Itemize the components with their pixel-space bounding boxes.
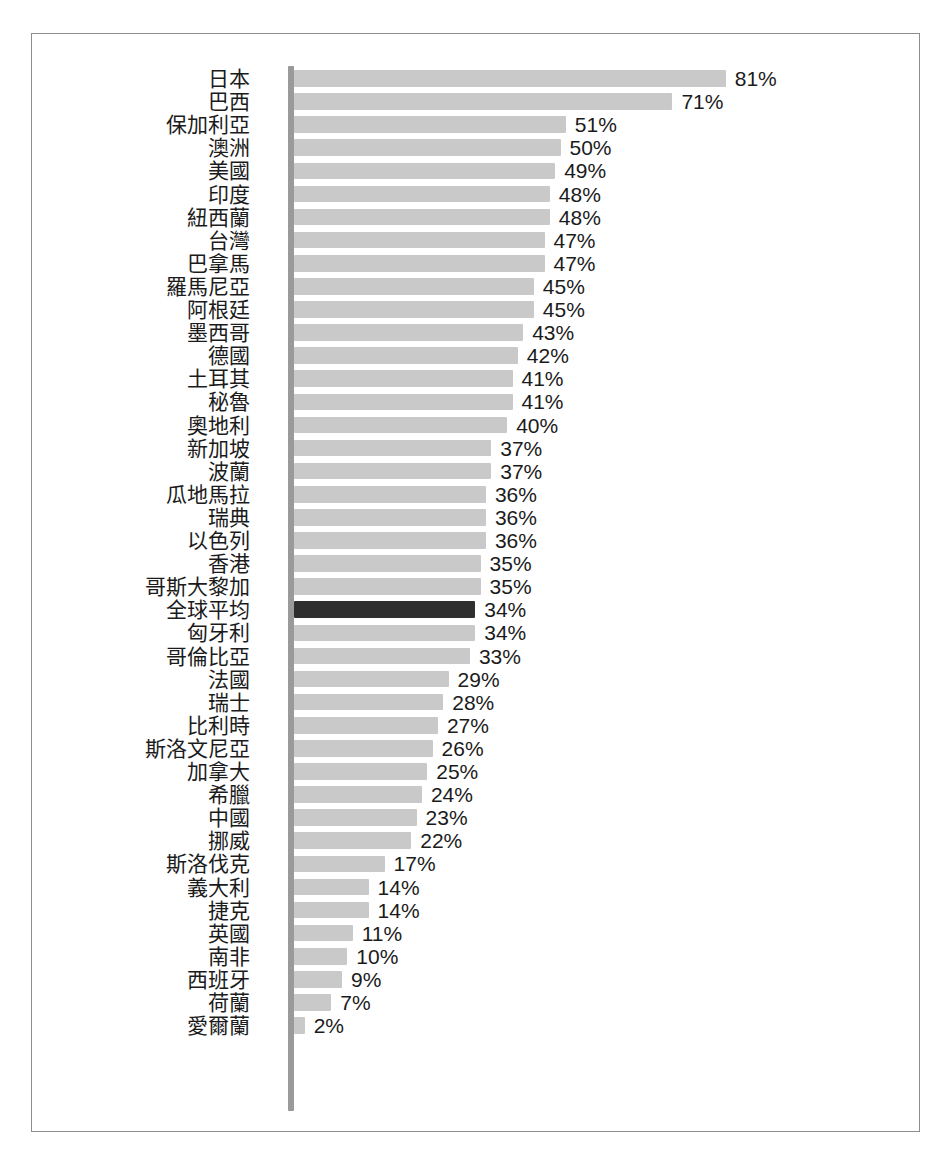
bar[interactable] bbox=[294, 278, 534, 295]
bar[interactable] bbox=[294, 93, 672, 110]
bar[interactable] bbox=[294, 509, 486, 526]
bar-row: 巴拿馬47% bbox=[32, 252, 919, 275]
bar-row: 羅馬尼亞45% bbox=[32, 275, 919, 298]
bar-track bbox=[294, 163, 555, 180]
bar[interactable] bbox=[294, 763, 427, 780]
bar[interactable] bbox=[294, 740, 433, 757]
bar-track bbox=[294, 786, 422, 803]
bar[interactable] bbox=[294, 1017, 305, 1034]
bar-row: 澳洲50% bbox=[32, 136, 919, 159]
bar-category-label: 台灣 bbox=[208, 229, 250, 252]
bar-highlighted[interactable] bbox=[294, 601, 475, 618]
bar-category-label: 哥斯大黎加 bbox=[145, 575, 250, 598]
bar[interactable] bbox=[294, 394, 513, 411]
bar[interactable] bbox=[294, 856, 385, 873]
bar-row: 墨西哥43% bbox=[32, 321, 919, 344]
bar[interactable] bbox=[294, 532, 486, 549]
bar-row: 印度48% bbox=[32, 183, 919, 206]
bar-category-label: 斯洛文尼亞 bbox=[145, 737, 250, 760]
bar-category-label: 巴拿馬 bbox=[187, 252, 250, 275]
bar[interactable] bbox=[294, 417, 507, 434]
bar-value-label: 27% bbox=[438, 714, 489, 737]
bar-track bbox=[294, 925, 353, 942]
bar-track bbox=[294, 394, 513, 411]
bar[interactable] bbox=[294, 925, 353, 942]
bar-row: 法國29% bbox=[32, 668, 919, 691]
bar-category-label: 羅馬尼亞 bbox=[166, 275, 250, 298]
bar[interactable] bbox=[294, 902, 369, 919]
bar[interactable] bbox=[294, 671, 449, 688]
bar-track bbox=[294, 601, 475, 618]
bar-value-label: 9% bbox=[342, 968, 381, 991]
bar[interactable] bbox=[294, 116, 566, 133]
bar[interactable] bbox=[294, 809, 417, 826]
bar[interactable] bbox=[294, 324, 523, 341]
bar-value-label: 45% bbox=[534, 298, 585, 321]
bar[interactable] bbox=[294, 879, 369, 896]
bar-track bbox=[294, 809, 417, 826]
bar-track bbox=[294, 209, 550, 226]
bar-track bbox=[294, 578, 481, 595]
bar-track bbox=[294, 994, 331, 1011]
bar[interactable] bbox=[294, 186, 550, 203]
plot-area: 日本81%巴西71%保加利亞51%澳洲50%美國49%印度48%紐西蘭48%台灣… bbox=[32, 34, 919, 1131]
bar[interactable] bbox=[294, 578, 481, 595]
bar-category-label: 波蘭 bbox=[208, 460, 250, 483]
bar[interactable] bbox=[294, 832, 411, 849]
bar[interactable] bbox=[294, 786, 422, 803]
bar[interactable] bbox=[294, 347, 518, 364]
bar-row: 波蘭37% bbox=[32, 460, 919, 483]
bar-category-label: 挪威 bbox=[208, 829, 250, 852]
bar-category-label: 紐西蘭 bbox=[187, 206, 250, 229]
bar[interactable] bbox=[294, 370, 513, 387]
bar-value-label: 48% bbox=[550, 206, 601, 229]
bar-category-label: 土耳其 bbox=[187, 367, 250, 390]
bar-track bbox=[294, 740, 433, 757]
bar[interactable] bbox=[294, 994, 331, 1011]
bar-value-label: 10% bbox=[347, 945, 398, 968]
bar[interactable] bbox=[294, 163, 555, 180]
bar-category-label: 荷蘭 bbox=[208, 991, 250, 1014]
bar-track bbox=[294, 694, 443, 711]
bar-category-label: 日本 bbox=[208, 67, 250, 90]
bar-value-label: 36% bbox=[486, 529, 537, 552]
bar-value-label: 34% bbox=[475, 621, 526, 644]
bar-value-label: 2% bbox=[305, 1014, 344, 1037]
bar-row: 日本81% bbox=[32, 67, 919, 90]
bar-track bbox=[294, 509, 486, 526]
bar[interactable] bbox=[294, 232, 545, 249]
bar-category-label: 秘魯 bbox=[208, 390, 250, 413]
bar[interactable] bbox=[294, 255, 545, 272]
bar-track bbox=[294, 902, 369, 919]
bar[interactable] bbox=[294, 948, 347, 965]
bar[interactable] bbox=[294, 625, 475, 642]
bar[interactable] bbox=[294, 440, 491, 457]
bar[interactable] bbox=[294, 717, 438, 734]
bar[interactable] bbox=[294, 694, 443, 711]
bar-value-label: 49% bbox=[555, 159, 606, 182]
bar-value-label: 36% bbox=[486, 483, 537, 506]
bar-value-label: 37% bbox=[491, 460, 542, 483]
bar-row: 新加坡37% bbox=[32, 437, 919, 460]
bar-row: 愛爾蘭2% bbox=[32, 1014, 919, 1037]
bar[interactable] bbox=[294, 139, 561, 156]
bar[interactable] bbox=[294, 463, 491, 480]
bar-category-label: 美國 bbox=[208, 159, 250, 182]
bar-track bbox=[294, 648, 470, 665]
bar-track bbox=[294, 717, 438, 734]
bar-track bbox=[294, 116, 566, 133]
bar[interactable] bbox=[294, 301, 534, 318]
bar[interactable] bbox=[294, 648, 470, 665]
bar-row: 以色列36% bbox=[32, 529, 919, 552]
bar[interactable] bbox=[294, 971, 342, 988]
bar-row: 南非10% bbox=[32, 945, 919, 968]
bar-value-label: 22% bbox=[411, 829, 462, 852]
bar-category-label: 英國 bbox=[208, 922, 250, 945]
bar-row: 秘魯41% bbox=[32, 390, 919, 413]
bar-category-label: 新加坡 bbox=[187, 437, 250, 460]
bar[interactable] bbox=[294, 209, 550, 226]
bar[interactable] bbox=[294, 555, 481, 572]
bar[interactable] bbox=[294, 70, 726, 87]
bar-row: 全球平均34% bbox=[32, 598, 919, 621]
bar[interactable] bbox=[294, 486, 486, 503]
